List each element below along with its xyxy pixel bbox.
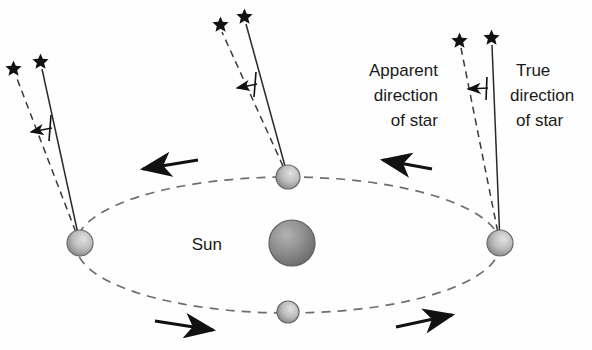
sight-group-left [5,53,80,243]
star-true-right-icon [483,29,499,44]
planet-right [487,230,513,256]
star-apparent-right-icon [451,32,467,47]
aberration-angle-arrow-left [31,128,52,132]
true-direction-line-left [42,69,80,243]
apparent-direction-label: Apparent direction of star [369,61,438,130]
planet-bottom [277,301,299,323]
motion-arrow-top-left [143,160,198,169]
planet-top [276,165,300,189]
true-direction-line-top [246,24,288,177]
sun-sphere [269,220,315,266]
planet-left [67,230,93,256]
motion-arrow-top-right [383,160,432,169]
star-true-top-icon [236,8,252,23]
apparent-label-line-1: Apparent [369,61,438,80]
star-true-left-icon [32,53,48,68]
sight-group-top [212,8,288,177]
sun-label: Sun [192,235,222,254]
true-direction-line-right [492,45,500,243]
motion-arrow-bottom-right [396,315,452,327]
true-label-line-2: direction [510,86,574,105]
apparent-label-line-2: direction [374,86,438,105]
star-apparent-left-icon [5,60,21,75]
true-label-line-3: of star [516,111,564,130]
apparent-label-line-3: of star [391,111,439,130]
aberration-angle-arrow-right [468,88,488,89]
true-label-line-1: True [516,61,550,80]
star-apparent-top-icon [212,16,228,31]
apparent-direction-line-left [16,76,80,243]
aberration-of-starlight-diagram: Sun Apparent direction of star True dire… [0,0,592,350]
apparent-direction-line-top [222,32,288,177]
true-direction-label: True direction of star [510,61,574,130]
diagram-canvas: Sun Apparent direction of star True dire… [0,0,592,350]
apparent-direction-line-right [461,48,500,243]
motion-arrow-bottom-left [155,321,213,330]
sight-group-right [451,29,500,243]
